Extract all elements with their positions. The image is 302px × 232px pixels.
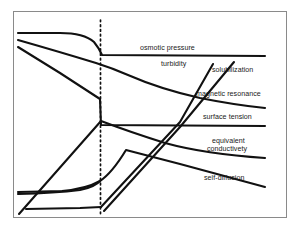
label-self-diffusion: self-diffusion (204, 174, 244, 182)
label-equivalent-conductivety-line1: equivalent (212, 137, 245, 145)
label-solubilization: solubilization (212, 66, 253, 74)
label-surface-tension: surface tension (203, 113, 252, 121)
plot-canvas (0, 0, 302, 232)
curve-lower-plateau-b (26, 207, 101, 209)
figure-root: osmotic pressure turbidity solubilizatio… (0, 0, 302, 232)
label-osmotic-pressure: osmotic pressure (140, 44, 195, 52)
label-magnetic-resonance: magnetic resonance (196, 90, 261, 98)
label-equivalent-conductivety-line2: conductivety (207, 145, 247, 153)
label-turbidity: turbidity (161, 60, 186, 68)
